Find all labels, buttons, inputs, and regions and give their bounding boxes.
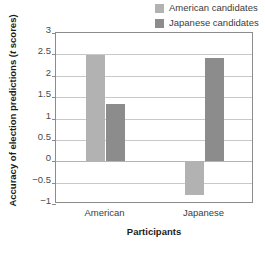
y-tick-mark bbox=[52, 161, 56, 162]
y-tick-mark bbox=[52, 183, 56, 184]
y-axis-label-prefix: Accuracy of election predictions ( bbox=[7, 54, 18, 207]
y-tick-label: 2 bbox=[3, 72, 51, 73]
legend-label-american-candidates: American candidates bbox=[169, 3, 258, 13]
gridline--0_5 bbox=[56, 183, 252, 184]
bar-japanese-american bbox=[185, 161, 204, 194]
y-tick-label: −1 bbox=[3, 200, 51, 201]
y-tick-label: 2.5 bbox=[3, 50, 51, 51]
bar-american-american bbox=[86, 55, 105, 161]
plot-area: 32.521.510.50−0.5−1 bbox=[55, 32, 253, 203]
y-tick-label: 0.5 bbox=[3, 136, 51, 137]
x-tick-label-japanese: Japanese bbox=[154, 207, 254, 218]
x-tick-label-american: American bbox=[55, 207, 155, 218]
legend-item-american-candidates: American candidates bbox=[155, 1, 265, 15]
y-tick-mark bbox=[52, 204, 56, 205]
bar-american-japanese bbox=[106, 104, 125, 162]
bar-japanese-japanese bbox=[205, 58, 224, 161]
y-tick-label: 1 bbox=[3, 115, 51, 116]
legend-label-japanese-candidates: Japanese candidates bbox=[169, 18, 259, 28]
y-axis-label-suffix: scores) bbox=[7, 14, 18, 50]
y-tick-label: 3 bbox=[3, 29, 51, 30]
y-axis-label: Accuracy of election predictions (t scor… bbox=[7, 11, 18, 211]
x-axis-label: Participants bbox=[55, 226, 253, 237]
y-tick-label: 0 bbox=[3, 157, 51, 158]
legend-item-japanese-candidates: Japanese candidates bbox=[155, 16, 265, 30]
legend-swatch-american-candidates bbox=[155, 4, 164, 13]
y-tick-mark bbox=[52, 97, 56, 98]
legend-swatch-japanese-candidates bbox=[155, 19, 164, 28]
y-tick-mark bbox=[52, 119, 56, 120]
chart-legend: American candidates Japanese candidates bbox=[155, 1, 265, 31]
y-tick-label: −0.5 bbox=[3, 179, 51, 180]
y-tick-mark bbox=[52, 140, 56, 141]
gridline-0 bbox=[56, 161, 252, 162]
y-tick-mark bbox=[52, 33, 56, 34]
y-tick-mark bbox=[52, 76, 56, 77]
y-tick-mark bbox=[52, 54, 56, 55]
chart-figure: American candidates Japanese candidates … bbox=[0, 0, 265, 267]
y-tick-label: 1.5 bbox=[3, 93, 51, 94]
